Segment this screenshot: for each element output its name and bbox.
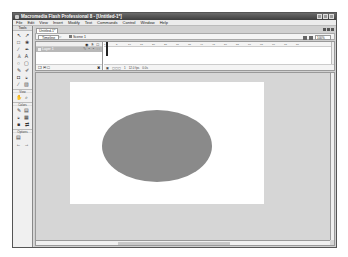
menu-edit[interactable]: Edit — [27, 20, 34, 25]
document-area: Untitled-1* Timeline ⇦ Scene 1 100% ◉ § … — [34, 26, 336, 247]
menu-modify[interactable]: Modify — [68, 20, 80, 25]
fill-color-icon[interactable]: ◒ — [15, 114, 22, 120]
flash-app-icon — [15, 15, 19, 19]
doc-restore-button[interactable] — [327, 28, 330, 31]
ink-bottle-icon[interactable]: ◘ — [15, 74, 22, 80]
doc-minimize-button[interactable] — [323, 28, 326, 31]
add-guide-icon[interactable]: ✉ — [43, 65, 46, 70]
edit-scene-icon[interactable] — [303, 36, 307, 40]
back-arrow-icon[interactable]: ⇦ — [58, 34, 61, 41]
add-folder-icon[interactable]: □ — [47, 65, 49, 70]
frame-status: ▣ ▢▢▢ 1 12.0 fps 0.0s — [104, 64, 334, 70]
swap-colors-icon[interactable]: ■ — [15, 121, 22, 127]
timeline-scrollbar[interactable] — [331, 42, 334, 64]
title-bar: Macromedia Flash Professional 8 - [Untit… — [13, 13, 336, 20]
zoom-select[interactable]: 100% — [315, 35, 331, 40]
layer-state-icons[interactable]: ✎ • • □ — [83, 47, 100, 52]
app-window: Macromedia Flash Professional 8 - [Untit… — [12, 12, 337, 248]
menu-control[interactable]: Control — [123, 20, 136, 25]
default-colors-icon[interactable]: ⇄ — [23, 121, 30, 127]
subselect-icon[interactable]: ↗ — [23, 32, 30, 38]
horizontal-scroll-thumb[interactable] — [118, 242, 230, 245]
layer-name: Layer 1 — [42, 47, 54, 51]
text-icon[interactable]: A — [23, 53, 30, 59]
menu-window[interactable]: Window — [140, 20, 154, 25]
center-frame-icon[interactable]: ▣ — [106, 65, 109, 70]
frame-ruler[interactable]: 15101520253035404550556065707580 — [104, 42, 334, 47]
layer-icon — [38, 48, 41, 51]
snap-icon[interactable]: ▤ — [15, 134, 22, 140]
eraser-icon[interactable]: ▧ — [23, 81, 30, 87]
menu-commands[interactable]: Commands — [97, 20, 117, 25]
straighten-icon[interactable]: → — [23, 141, 30, 147]
maximize-button[interactable] — [323, 14, 328, 19]
timeline-panel: ◉ § □ Layer 1 ✎ • • □ ❐ ✉ □ ✖ 1510152025… — [35, 41, 335, 71]
hand-icon[interactable]: ✋ — [15, 94, 22, 100]
horizontal-scrollbar[interactable] — [36, 240, 330, 245]
delete-layer-icon[interactable]: ✖ — [97, 65, 100, 71]
close-button[interactable] — [329, 14, 334, 19]
timeline-toggle-button[interactable]: Timeline — [38, 35, 59, 40]
line-icon[interactable]: ∕ — [15, 46, 22, 52]
stroke-swatch[interactable]: ▤ — [23, 107, 30, 113]
layers-column: ◉ § □ Layer 1 ✎ • • □ ❐ ✉ □ ✖ — [36, 42, 103, 70]
window-title: Macromedia Flash Professional 8 - [Untit… — [21, 14, 122, 19]
paint-bucket-icon[interactable]: ◒ — [23, 74, 30, 80]
stage-canvas[interactable] — [70, 82, 264, 204]
current-frame: 1 — [124, 65, 126, 70]
menu-view[interactable]: View — [39, 20, 48, 25]
scene-breadcrumb[interactable]: Scene 1 — [69, 34, 86, 41]
lasso-icon[interactable]: ❀ — [23, 39, 30, 45]
menu-help[interactable]: Help — [160, 20, 168, 25]
zoom-icon[interactable]: ⌕ — [23, 94, 30, 100]
edit-bar: Timeline ⇦ Scene 1 100% — [35, 33, 335, 40]
playhead[interactable] — [106, 42, 108, 56]
smooth-icon[interactable]: ← — [15, 141, 22, 147]
elapsed-time: 0.0s — [142, 65, 148, 70]
frames-column: 15101520253035404550556065707580 ▣ ▢▢▢ 1… — [104, 42, 334, 70]
free-transform-icon[interactable]: □ — [15, 39, 22, 45]
rectangle-icon[interactable]: ▢ — [23, 60, 30, 66]
tools-panel: Tools ↖ ↗ □ ❀ ∕ ✒ ♙ A ○ ▢ ✎ ✐ ◘ ◒ ∕ ▧ Vi… — [13, 26, 33, 247]
fill-swatch[interactable]: ▦ — [23, 114, 30, 120]
minimize-button[interactable] — [317, 14, 322, 19]
edit-symbol-icon[interactable] — [309, 36, 313, 40]
brush-icon[interactable]: ✐ — [23, 67, 30, 73]
menu-insert[interactable]: Insert — [53, 20, 63, 25]
menu-file[interactable]: File — [16, 20, 22, 25]
pencil-icon[interactable]: ✎ — [15, 67, 22, 73]
layer-controls: ❐ ✉ □ ✖ — [36, 64, 102, 70]
oval-icon[interactable]: ○ — [15, 60, 22, 66]
ink-icon[interactable]: ♙ — [15, 53, 22, 59]
layer-row[interactable]: Layer 1 ✎ • • □ — [36, 47, 102, 52]
pen-icon[interactable]: ✒ — [23, 46, 30, 52]
doc-close-button[interactable] — [331, 28, 334, 31]
stroke-color-icon[interactable]: ✎ — [15, 107, 22, 113]
oval-shape[interactable] — [102, 110, 212, 182]
onion-skin-icons[interactable]: ▢▢▢ — [112, 65, 121, 70]
add-layer-icon[interactable]: ❐ — [38, 65, 42, 70]
vertical-scrollbar[interactable] — [330, 73, 334, 240]
frame-rate: 12.0 fps — [129, 65, 140, 70]
stage-area — [35, 72, 335, 246]
eyedropper-icon[interactable]: ∕ — [15, 81, 22, 87]
arrow-icon[interactable]: ↖ — [15, 32, 22, 38]
scene-icon — [69, 35, 72, 38]
menu-text[interactable]: Text — [85, 20, 92, 25]
